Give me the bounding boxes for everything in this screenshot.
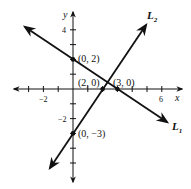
- coordinate-plane-figure: −2 6 4 −2 y x (0, 2) (2, 0) (3, 0) (0, −…: [0, 0, 191, 189]
- x-axis-label: x: [174, 92, 180, 103]
- line-L2: [50, 25, 146, 168]
- line-label-L1: L1: [171, 120, 182, 135]
- point-0-neg3: [71, 131, 76, 136]
- point-label-3-0: (3, 0): [113, 77, 135, 89]
- point-label-0-2: (0, 2): [78, 53, 100, 65]
- x-tick-label-neg2: −2: [39, 95, 48, 104]
- y-axis-label: y: [62, 9, 68, 20]
- x-tick-label-6: 6: [159, 95, 163, 104]
- graph-canvas: −2 6 4 −2 y x (0, 2) (2, 0) (3, 0) (0, −…: [0, 0, 191, 189]
- line-L1: [25, 27, 167, 122]
- point-0-2: [71, 57, 76, 62]
- point-label-0-neg3: (0, −3): [78, 128, 105, 140]
- point-label-2-0: (2, 0): [78, 77, 100, 89]
- point-2-0: [100, 87, 105, 92]
- y-tick-label-4: 4: [62, 26, 66, 35]
- y-tick-label-neg2: −2: [58, 115, 67, 124]
- line-label-L2: L2: [146, 9, 158, 24]
